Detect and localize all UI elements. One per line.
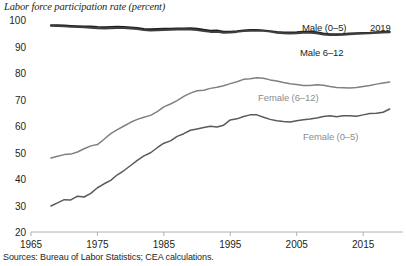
series-label-male-0-5: Male (0–5) (302, 22, 346, 33)
y-axis-tick-label: 70 (0, 94, 26, 105)
x-axis-tick-label: 1995 (219, 239, 241, 250)
y-axis-tick-label: 60 (0, 121, 26, 132)
series-line-female-6-12 (51, 78, 390, 158)
y-axis-tick-label: 90 (0, 41, 26, 52)
y-axis-tick-label: 100 (0, 15, 26, 26)
x-axis-tick-label: 1975 (86, 239, 108, 250)
y-axis-tick-label: 80 (0, 68, 26, 79)
x-axis-tick-label: 1985 (153, 239, 175, 250)
series-label-male-6-12: Male 6–12 (300, 47, 343, 58)
y-axis-tick-label: 50 (0, 147, 26, 158)
y-axis-tick-label: 40 (0, 174, 26, 185)
series-label-female-6-12: Female (6–12) (258, 92, 318, 103)
y-axis-tick-label: 20 (0, 227, 26, 238)
source-note: Sources: Bureau of Labor Statistics; CEA… (3, 252, 214, 262)
x-axis-tick-label: 2015 (352, 239, 374, 250)
chart-figure: Labor force participation rate (percent)… (0, 0, 406, 266)
x-axis-tick-label: 1965 (20, 239, 42, 250)
end-year-label: 2019 (370, 22, 391, 33)
x-axis-tick-label: 2005 (286, 239, 308, 250)
series-label-female-0-5: Female (0–5) (303, 131, 358, 142)
y-axis-tick-label: 30 (0, 200, 26, 211)
series-line-female-0-5 (51, 109, 390, 206)
